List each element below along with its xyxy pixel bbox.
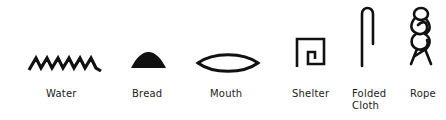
bread-loaf-icon (130, 50, 167, 70)
label-water: Water (46, 88, 77, 100)
shelter-square-icon (294, 36, 328, 68)
zigzag-water-icon (26, 52, 104, 74)
label-rope: Rope (410, 88, 436, 100)
label-shelter: Shelter (292, 88, 329, 100)
label-mouth: Mouth (210, 88, 242, 100)
label-bread: Bread (132, 88, 162, 100)
label-folded-cloth-line1: Folded (352, 88, 386, 100)
mouth-oval-icon (195, 53, 261, 73)
label-folded-cloth: Folded Cloth (352, 88, 386, 112)
twisted-rope-icon (406, 4, 436, 68)
folded-cloth-icon (357, 4, 379, 68)
label-folded-cloth-line2: Cloth (352, 100, 386, 112)
